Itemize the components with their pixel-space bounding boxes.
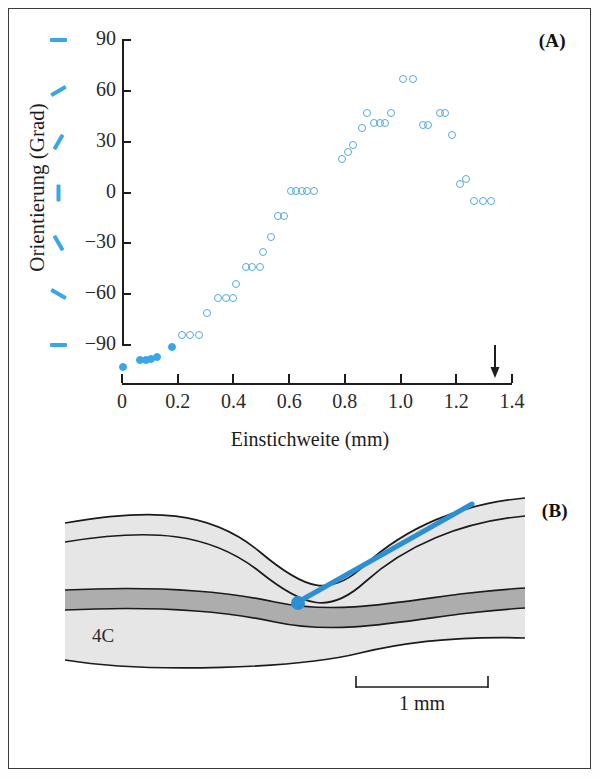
x-tick-label-2: 0.4 — [203, 390, 263, 413]
y-tick-label-3: 0 — [58, 180, 116, 203]
data-point — [344, 148, 352, 156]
scale-bar-label: 1 mm — [352, 692, 492, 715]
data-point — [232, 280, 240, 288]
data-point — [214, 294, 222, 302]
x-tick-label-3: 0.6 — [259, 390, 319, 413]
orientation-bar-icon-6 — [50, 343, 67, 347]
data-point — [153, 353, 161, 361]
penetration-end-arrow-icon — [489, 345, 501, 378]
x-tick-label-7: 1.4 — [482, 390, 542, 413]
x-tick-4 — [344, 374, 346, 383]
layer-4c-label: 4C — [92, 625, 114, 647]
cortex-section-diagram — [60, 490, 530, 690]
data-point — [409, 75, 417, 83]
y-tick-3 — [122, 192, 131, 194]
x-tick-0 — [121, 374, 123, 383]
y-tick-label-1: 60 — [58, 78, 116, 101]
panel-b: (B) 4C — [0, 470, 601, 779]
data-point — [358, 124, 366, 132]
data-point — [248, 263, 256, 271]
x-axis-line — [122, 383, 512, 385]
cortex-slab — [65, 498, 525, 668]
data-point — [479, 197, 487, 205]
data-point — [168, 343, 176, 351]
orientation-bar-icon-3 — [57, 184, 61, 201]
data-point — [462, 175, 470, 183]
y-tick-5 — [122, 293, 131, 295]
y-tick-label-4: −30 — [58, 230, 116, 253]
data-point — [259, 248, 267, 256]
data-point — [381, 119, 389, 127]
x-tick-6 — [455, 374, 457, 383]
panel-b-label: (B) — [542, 500, 568, 522]
x-tick-3 — [288, 374, 290, 383]
data-point — [186, 331, 194, 339]
x-tick-label-0: 0 — [92, 390, 152, 413]
data-point — [195, 331, 203, 339]
data-point — [338, 155, 346, 163]
x-tick-label-5: 1.0 — [371, 390, 431, 413]
data-point — [267, 233, 275, 241]
y-tick-label-2: 30 — [58, 129, 116, 152]
x-tick-label-1: 0.2 — [148, 390, 208, 413]
data-point — [470, 197, 478, 205]
y-axis-label: Orientierung (Grad) — [25, 73, 50, 303]
y-tick-1 — [122, 90, 131, 92]
y-tick-0 — [122, 39, 131, 41]
data-point — [203, 309, 211, 317]
x-tick-label-6: 1.2 — [426, 390, 486, 413]
panel-a: (A) Orientierung (Grad) Einstichweite (m… — [0, 0, 601, 470]
x-axis-label: Einstichweite (mm) — [110, 428, 510, 451]
data-point — [280, 212, 288, 220]
data-point — [487, 197, 495, 205]
data-point — [399, 75, 407, 83]
data-point — [448, 131, 456, 139]
y-tick-2 — [122, 141, 131, 143]
recording-site-marker — [291, 596, 305, 610]
x-tick-7 — [511, 374, 513, 383]
y-tick-6 — [122, 344, 131, 346]
panel-a-label: (A) — [539, 30, 566, 52]
data-point — [256, 263, 264, 271]
data-point — [310, 187, 318, 195]
x-tick-2 — [232, 374, 234, 383]
data-point — [119, 363, 127, 371]
data-point — [441, 109, 449, 117]
data-point — [424, 121, 432, 129]
x-tick-label-4: 0.8 — [315, 390, 375, 413]
orientation-bar-icon-0 — [50, 38, 67, 42]
scale-bar — [352, 673, 492, 691]
data-point — [229, 294, 237, 302]
y-tick-label-5: −60 — [58, 281, 116, 304]
figure-container: (A) Orientierung (Grad) Einstichweite (m… — [0, 0, 601, 779]
data-point — [387, 109, 395, 117]
data-point — [349, 141, 357, 149]
y-tick-4 — [122, 242, 131, 244]
data-point — [178, 331, 186, 339]
x-tick-1 — [177, 374, 179, 383]
data-point — [363, 109, 371, 117]
x-tick-5 — [400, 374, 402, 383]
